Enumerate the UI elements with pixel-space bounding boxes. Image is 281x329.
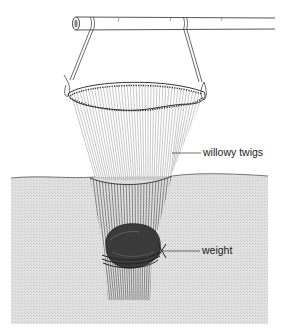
twigs-above-water	[70, 83, 202, 180]
weight-stone	[106, 224, 161, 268]
bamboo-pole	[73, 17, 276, 30]
fish-trap-illustration	[0, 0, 281, 329]
label-weight: weight	[202, 245, 232, 256]
label-willowy-twigs: willowy twigs	[203, 147, 263, 158]
